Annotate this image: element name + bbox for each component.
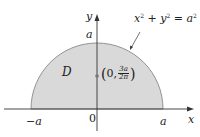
eq-a-exp: 2 bbox=[193, 12, 197, 19]
y-tick-a: a bbox=[86, 29, 93, 40]
semicircle-region-diagram: x2 + y2 = a2 y a D (0,3a2π) −a 0 a x bbox=[0, 0, 200, 137]
centroid-close-paren: ) bbox=[130, 66, 135, 82]
centroid-label: (0,3a2π) bbox=[101, 66, 136, 81]
eq-equals: = bbox=[170, 12, 186, 25]
region-label: D bbox=[62, 66, 72, 78]
centroid-y-fraction: 3a2π bbox=[118, 66, 129, 81]
curve-leader-line bbox=[131, 32, 140, 48]
curve-equation-label: x2 + y2 = a2 bbox=[134, 13, 197, 24]
fraction-denominator: 2π bbox=[118, 74, 129, 81]
centroid-point bbox=[95, 74, 99, 78]
x-axis-arrow-icon bbox=[187, 107, 194, 112]
centroid-x: 0, bbox=[106, 67, 117, 80]
x-tick-pos-a: a bbox=[160, 116, 167, 127]
y-axis-arrow-icon bbox=[95, 14, 100, 21]
x-tick-neg-a: −a bbox=[26, 116, 42, 127]
origin-label: 0 bbox=[89, 113, 96, 124]
y-axis-label: y bbox=[86, 11, 92, 22]
x-axis-label: x bbox=[188, 114, 194, 125]
curve-leader-arrow-icon bbox=[130, 46, 133, 51]
eq-plus: + bbox=[144, 12, 160, 25]
